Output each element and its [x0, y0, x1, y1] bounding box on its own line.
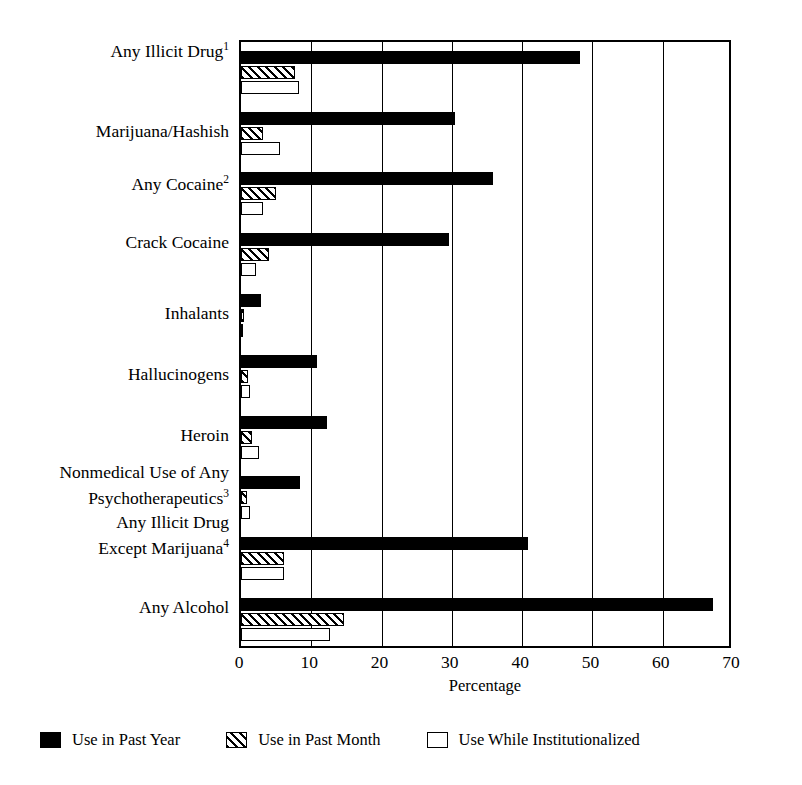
y-axis-label: Heroin	[0, 425, 229, 446]
bar-gap	[241, 79, 729, 81]
x-axis-ticks: 010203040506070	[239, 652, 731, 678]
bar-gap	[241, 565, 729, 567]
y-axis-label: Hallucinogens	[0, 364, 229, 385]
bar-year	[241, 112, 455, 125]
bar-inst	[241, 202, 263, 215]
y-axis-label: Nonmedical Use of AnyPsychotherapeutics3	[0, 462, 229, 509]
bar-month	[241, 613, 344, 626]
bar-inst	[241, 385, 250, 398]
bar-gap	[241, 64, 729, 66]
bar-inst	[241, 567, 284, 580]
bar-group	[241, 589, 729, 650]
x-tick-label-50: 50	[582, 652, 600, 673]
footnote-marker: 4	[223, 537, 229, 549]
bar-group	[241, 164, 729, 225]
y-axis-label: Crack Cocaine	[0, 232, 229, 253]
y-axis-label: Any Illicit DrugExcept Marijuana4	[0, 512, 229, 559]
legend-item-inst[interactable]: Use While Institutionalized	[427, 730, 640, 750]
chart-figure: Any Illicit Drug1Marijuana/HashishAny Co…	[0, 0, 802, 785]
bar-group	[241, 285, 729, 346]
bar-group	[241, 407, 729, 468]
bar-gap	[241, 383, 729, 385]
bar-group	[241, 528, 729, 589]
bar-group	[241, 103, 729, 164]
legend-item-month[interactable]: Use in Past Month	[226, 730, 380, 750]
bar-gap	[241, 322, 729, 324]
bar-gap	[241, 185, 729, 187]
legend-label: Use While Institutionalized	[459, 730, 640, 750]
bar-month	[241, 309, 244, 322]
bar-inst	[241, 446, 259, 459]
bar-group	[241, 42, 729, 103]
legend-swatch-year-icon	[40, 732, 61, 748]
bar-month	[241, 127, 263, 140]
footnote-marker: 3	[223, 487, 229, 499]
footnote-marker: 1	[223, 40, 229, 52]
bar-month	[241, 491, 247, 504]
bar-month	[241, 66, 295, 79]
bar-gap	[241, 307, 729, 309]
bar-group	[241, 346, 729, 407]
y-axis-label: Inhalants	[0, 303, 229, 324]
y-axis-label: Any Cocaine2	[0, 169, 229, 195]
bar-year	[241, 476, 300, 489]
bar-gap	[241, 444, 729, 446]
plot-area	[239, 40, 731, 648]
bar-gap	[241, 489, 729, 491]
x-tick-label-10: 10	[301, 652, 319, 673]
bar-year	[241, 172, 493, 185]
bar-year	[241, 233, 449, 246]
bar-year	[241, 537, 528, 550]
legend-swatch-inst-icon	[427, 732, 448, 748]
bar-year	[241, 51, 580, 64]
bar-inst	[241, 628, 330, 641]
bar-month	[241, 248, 269, 261]
bar-group	[241, 224, 729, 285]
bar-month	[241, 370, 248, 383]
bar-gap	[241, 550, 729, 552]
x-tick-label-0: 0	[235, 652, 244, 673]
bar-gap	[241, 140, 729, 142]
bar-gap	[241, 200, 729, 202]
bar-inst	[241, 324, 243, 337]
x-tick-label-60: 60	[652, 652, 670, 673]
bar-inst	[241, 142, 280, 155]
bar-group	[241, 468, 729, 529]
x-tick-label-20: 20	[371, 652, 389, 673]
legend-label: Use in Past Year	[72, 730, 180, 750]
y-axis-label: Marijuana/Hashish	[0, 121, 229, 142]
bar-gap	[241, 429, 729, 431]
x-tick-label-40: 40	[511, 652, 529, 673]
bar-month	[241, 431, 252, 444]
legend-swatch-month-icon	[226, 732, 247, 748]
bar-inst	[241, 506, 250, 519]
bar-inst	[241, 81, 299, 94]
bar-gap	[241, 504, 729, 506]
chart-legend: Use in Past YearUse in Past MonthUse Whi…	[40, 730, 780, 750]
legend-item-year[interactable]: Use in Past Year	[40, 730, 180, 750]
bar-gap	[241, 368, 729, 370]
footnote-marker: 2	[223, 173, 229, 185]
bar-gap	[241, 261, 729, 263]
bar-gap	[241, 246, 729, 248]
bar-year	[241, 598, 713, 611]
bar-month	[241, 552, 284, 565]
bar-gap	[241, 125, 729, 127]
x-tick-label-30: 30	[441, 652, 459, 673]
legend-label: Use in Past Month	[258, 730, 380, 750]
y-axis-label: Any Alcohol	[0, 597, 229, 618]
bar-year	[241, 294, 261, 307]
y-axis-label: Any Illicit Drug1	[0, 36, 229, 62]
x-axis-title: Percentage	[239, 676, 731, 696]
x-tick-label-70: 70	[722, 652, 740, 673]
bar-year	[241, 355, 317, 368]
bar-month	[241, 187, 276, 200]
bar-year	[241, 416, 327, 429]
bar-inst	[241, 263, 256, 276]
